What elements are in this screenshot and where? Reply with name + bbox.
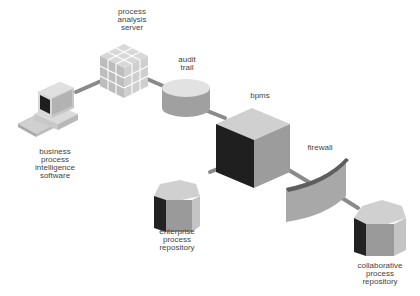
- computer-workstation-icon: [18, 82, 78, 137]
- hexagonal-prism-icon: [154, 180, 200, 232]
- label-audit-trail: audit trail: [172, 56, 202, 72]
- label-collaborative-process-repository: collaborative process repository: [350, 262, 410, 286]
- hexagonal-prism-icon: [354, 200, 406, 256]
- label-enterprise-process-repository: enterprise process repository: [152, 228, 202, 252]
- label-business-process-intelligence-software: business process intelligence software: [30, 148, 80, 180]
- label-firewall: firewall: [300, 144, 340, 152]
- cube-icon: [216, 108, 290, 188]
- firewall-icon: [286, 158, 349, 222]
- label-bpms: bpms: [245, 92, 275, 100]
- cube-grid-icon: [100, 44, 148, 98]
- label-process-analysis-server: process analysis server: [107, 8, 157, 32]
- cylinder-icon: [162, 79, 210, 117]
